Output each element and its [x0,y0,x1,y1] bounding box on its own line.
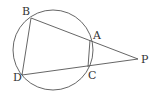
label-a: A [92,29,102,42]
label-d: D [13,71,22,84]
segment-bp [31,18,138,59]
segment-ac [88,40,90,67]
segment-bd [22,18,31,75]
circle [13,10,93,90]
label-p: P [141,53,149,66]
segment-dp [22,59,138,75]
geometry-diagram: B A C D P [0,0,156,95]
label-c: C [88,69,96,82]
label-b: B [22,5,30,18]
